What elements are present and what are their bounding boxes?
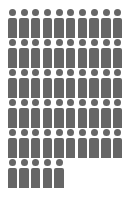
person-body — [31, 108, 41, 128]
person-head — [21, 9, 28, 16]
person-icon — [7, 69, 19, 99]
person-icon — [42, 9, 54, 39]
person-head — [21, 69, 28, 76]
person-icon — [112, 9, 124, 39]
person-icon — [101, 39, 113, 69]
person-icon — [54, 99, 66, 129]
person-head — [103, 39, 110, 46]
person-head — [114, 129, 121, 136]
person-icon — [19, 9, 31, 39]
person-icon — [101, 99, 113, 129]
person-head — [103, 69, 110, 76]
person-icon — [77, 129, 89, 159]
person-icon — [54, 159, 66, 189]
person-body — [113, 108, 123, 128]
person-head — [44, 69, 51, 76]
person-icon — [54, 69, 66, 99]
person-head — [21, 159, 28, 166]
person-body — [8, 108, 18, 128]
person-head — [21, 129, 28, 136]
person-body — [31, 78, 41, 98]
person-head — [9, 39, 16, 46]
person-icon — [7, 129, 19, 159]
person-body — [31, 138, 41, 158]
person-icon — [30, 159, 42, 189]
person-icon — [112, 39, 124, 69]
person-head — [32, 159, 39, 166]
person-head — [103, 9, 110, 16]
person-head — [91, 69, 98, 76]
person-body — [54, 168, 64, 188]
person-icon — [30, 9, 42, 39]
pictogram-grid — [7, 9, 125, 189]
person-icon — [77, 9, 89, 39]
person-body — [101, 108, 111, 128]
person-body — [31, 168, 41, 188]
pictogram-row — [7, 99, 125, 129]
person-icon — [42, 159, 54, 189]
person-icon — [89, 39, 101, 69]
person-body — [78, 108, 88, 128]
person-body — [19, 78, 29, 98]
person-body — [54, 138, 64, 158]
person-icon — [89, 129, 101, 159]
person-icon — [112, 129, 124, 159]
person-head — [32, 69, 39, 76]
person-body — [19, 18, 29, 38]
person-icon — [54, 129, 66, 159]
person-body — [66, 138, 76, 158]
person-head — [56, 99, 63, 106]
person-body — [19, 168, 29, 188]
person-head — [103, 99, 110, 106]
person-head — [44, 99, 51, 106]
person-body — [8, 48, 18, 68]
person-head — [9, 69, 16, 76]
person-head — [67, 69, 74, 76]
person-icon — [89, 9, 101, 39]
person-head — [79, 9, 86, 16]
person-head — [91, 129, 98, 136]
person-icon — [42, 99, 54, 129]
person-body — [66, 18, 76, 38]
person-icon — [89, 69, 101, 99]
person-head — [79, 69, 86, 76]
person-body — [54, 108, 64, 128]
person-body — [101, 78, 111, 98]
person-head — [91, 9, 98, 16]
person-body — [8, 78, 18, 98]
person-body — [43, 168, 53, 188]
person-icon — [77, 99, 89, 129]
person-body — [66, 48, 76, 68]
person-icon — [42, 39, 54, 69]
person-body — [43, 108, 53, 128]
person-icon — [65, 39, 77, 69]
person-body — [43, 78, 53, 98]
person-head — [67, 39, 74, 46]
person-body — [78, 78, 88, 98]
person-icon — [89, 99, 101, 129]
person-body — [101, 138, 111, 158]
pictogram-row — [7, 129, 125, 159]
person-body — [78, 138, 88, 158]
person-body — [43, 138, 53, 158]
person-head — [9, 99, 16, 106]
person-head — [91, 99, 98, 106]
person-head — [32, 39, 39, 46]
person-body — [8, 138, 18, 158]
person-body — [101, 48, 111, 68]
person-head — [67, 99, 74, 106]
person-body — [31, 48, 41, 68]
person-head — [114, 99, 121, 106]
person-icon — [101, 129, 113, 159]
person-icon — [112, 69, 124, 99]
person-icon — [54, 9, 66, 39]
person-body — [113, 18, 123, 38]
person-head — [9, 9, 16, 16]
person-icon — [101, 9, 113, 39]
person-icon — [65, 69, 77, 99]
person-icon — [19, 129, 31, 159]
person-icon — [42, 129, 54, 159]
person-head — [44, 159, 51, 166]
person-body — [54, 18, 64, 38]
person-head — [21, 39, 28, 46]
